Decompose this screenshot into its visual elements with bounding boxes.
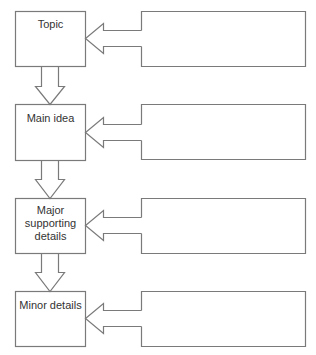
down-arrow-2 xyxy=(36,161,65,199)
right-box-3-text xyxy=(145,202,301,249)
down-arrow-3 xyxy=(36,254,65,292)
major-supporting-details-line-3: details xyxy=(15,230,86,243)
down-arrow-1 xyxy=(36,67,65,105)
left-arrow-3 xyxy=(86,211,142,241)
topic-label: Topic xyxy=(15,18,86,31)
right-box-2-text xyxy=(145,108,301,155)
major-supporting-details-label: Major supporting details xyxy=(15,204,86,243)
right-box-1-text xyxy=(145,15,301,62)
minor-details-label: Minor details xyxy=(15,299,86,312)
main-idea-label: Main idea xyxy=(15,112,86,125)
major-supporting-details-line-1: Major xyxy=(15,204,86,217)
left-arrow-1 xyxy=(86,24,142,54)
major-supporting-details-line-2: supporting xyxy=(15,217,86,230)
left-arrow-4 xyxy=(86,304,142,334)
left-arrow-2 xyxy=(86,118,142,148)
right-box-4-text xyxy=(145,295,301,342)
